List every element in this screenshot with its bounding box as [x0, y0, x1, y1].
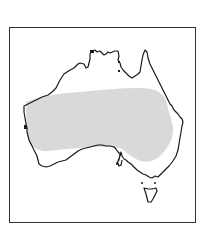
distribution-range [26, 88, 173, 162]
tasmania-coastline [144, 188, 157, 202]
australia-map [0, 0, 206, 231]
melville-island [90, 50, 94, 53]
king-island [141, 182, 143, 184]
shark-bay-mark [24, 125, 27, 129]
flinders-island [154, 182, 156, 184]
groote-eylandt [118, 61, 120, 63]
wellesley-islands [118, 70, 120, 72]
